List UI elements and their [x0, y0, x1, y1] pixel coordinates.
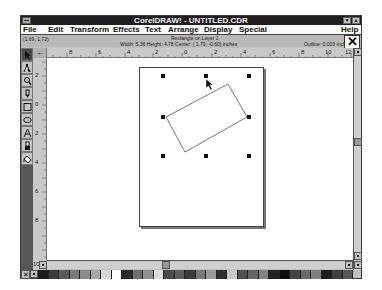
color-swatch[interactable] [217, 270, 228, 279]
text-a-icon [23, 128, 32, 138]
shape-tool[interactable] [21, 61, 33, 74]
color-swatch[interactable] [122, 270, 133, 279]
horizontal-scroll-thumb[interactable] [162, 261, 170, 269]
mouse-pointer-icon [206, 79, 216, 91]
menu-file[interactable]: File [23, 25, 37, 34]
pick-tool[interactable] [21, 48, 33, 61]
color-swatch[interactable] [112, 270, 123, 279]
color-swatch[interactable] [91, 270, 102, 279]
color-swatch[interactable] [101, 270, 112, 279]
system-menu-button[interactable] [22, 17, 31, 24]
magnifier-icon [23, 76, 32, 86]
color-swatch[interactable] [80, 270, 91, 279]
pencil-icon [23, 89, 32, 99]
vertical-ruler[interactable]: 2 0 2 4 6 8 10 [33, 58, 47, 270]
rectangle-icon [23, 102, 32, 112]
menu-special[interactable]: Special [239, 25, 267, 34]
color-swatch[interactable] [259, 270, 270, 279]
color-swatch[interactable] [343, 270, 354, 279]
color-swatch[interactable] [322, 270, 333, 279]
coreldraw-window: CorelDRAW! - UNTITLED.CDR ▼ ▲ File Edit … [20, 15, 362, 279]
window-title: CorelDRAW! - UNTITLED.CDR [134, 16, 248, 25]
menu-effects[interactable]: Effects [113, 25, 140, 34]
menu-edit[interactable]: Edit [48, 25, 63, 34]
color-swatch[interactable] [70, 270, 81, 279]
minimize-icon: ▼ [345, 17, 350, 23]
color-swatch[interactable] [154, 270, 165, 279]
maximize-icon: ▲ [354, 17, 359, 23]
color-swatch[interactable] [133, 270, 144, 279]
crosshair-icon: -+- [36, 50, 42, 56]
palette-scroll-right-button[interactable] [354, 261, 362, 269]
color-swatch[interactable] [332, 270, 343, 279]
close-document-button[interactable]: ✕ [344, 35, 360, 49]
printable-page [139, 67, 264, 227]
cursor-coordinates: (1.69, 1.72) [23, 36, 49, 42]
color-palette [38, 270, 353, 279]
scroll-up-button[interactable] [354, 48, 362, 56]
scroll-right-button[interactable] [345, 261, 353, 269]
scroll-down-button[interactable] [354, 252, 362, 260]
menu-display[interactable]: Display [204, 25, 232, 34]
pen-nib-icon [23, 141, 32, 151]
color-swatch[interactable] [49, 270, 60, 279]
color-swatch[interactable] [185, 270, 196, 279]
scroll-left-button[interactable] [39, 261, 47, 269]
menu-text[interactable]: Text [145, 25, 161, 34]
toolbox [21, 48, 33, 270]
menu-help[interactable]: Help [341, 25, 358, 34]
color-swatch[interactable] [280, 270, 291, 279]
pencil-tool[interactable] [21, 87, 33, 100]
color-swatch[interactable] [206, 270, 217, 279]
menu-arrange[interactable]: Arrange [168, 25, 199, 34]
color-swatch[interactable] [143, 270, 154, 279]
paint-bucket-icon [23, 154, 32, 164]
object-dimensions: Width: 5.36 Height: 4.78 Center: ( 1.70,… [120, 41, 237, 47]
color-swatch[interactable] [164, 270, 175, 279]
ruler-ticks [33, 48, 353, 58]
rectangle-tool[interactable] [21, 100, 33, 113]
color-swatch[interactable] [196, 270, 207, 279]
status-bar: (1.69, 1.72) Rectangle on Layer 1 Width:… [21, 35, 361, 47]
color-swatch[interactable] [59, 270, 70, 279]
horizontal-scrollbar[interactable] [47, 260, 353, 269]
color-swatch[interactable] [227, 270, 238, 279]
menu-bar: File Edit Transform Effects Text Arrange… [21, 25, 361, 35]
vertical-scroll-thumb[interactable] [354, 138, 362, 146]
color-swatch[interactable] [269, 270, 280, 279]
minimize-button[interactable]: ▼ [343, 17, 351, 24]
color-swatch[interactable] [290, 270, 301, 279]
color-swatch[interactable] [238, 270, 249, 279]
ellipse-tool[interactable] [21, 113, 33, 126]
color-swatch[interactable] [38, 270, 49, 279]
palette-scroll-left-button[interactable] [30, 270, 38, 278]
text-tool[interactable] [21, 126, 33, 139]
no-fill-swatch[interactable]: ✕ [21, 270, 30, 279]
maximize-button[interactable]: ▲ [352, 17, 360, 24]
horizontal-ruler[interactable]: 8 6 4 2 0 2 4 6 8 10 12 [33, 48, 353, 58]
arrow-pointer-icon [23, 50, 32, 60]
color-swatch[interactable] [311, 270, 322, 279]
color-swatch[interactable] [301, 270, 312, 279]
color-swatch[interactable] [175, 270, 186, 279]
ruler-ticks [33, 58, 47, 270]
vertical-scrollbar[interactable] [353, 48, 361, 270]
title-bar: CorelDRAW! - UNTITLED.CDR ▼ ▲ [21, 16, 361, 25]
no-fill-x-icon: ✕ [23, 271, 29, 278]
rotated-rectangle[interactable] [140, 68, 263, 226]
menu-transform[interactable]: Transform [70, 25, 109, 34]
zoom-tool[interactable] [21, 74, 33, 87]
color-swatch[interactable] [248, 270, 259, 279]
drawing-canvas[interactable] [47, 58, 353, 260]
fill-tool[interactable] [21, 152, 33, 165]
close-icon: ✕ [347, 34, 358, 49]
outline-tool[interactable] [21, 139, 33, 152]
ellipse-icon [23, 115, 32, 125]
ruler-origin-crosshair[interactable]: -+- [33, 48, 47, 58]
shape-node-icon [23, 63, 32, 73]
